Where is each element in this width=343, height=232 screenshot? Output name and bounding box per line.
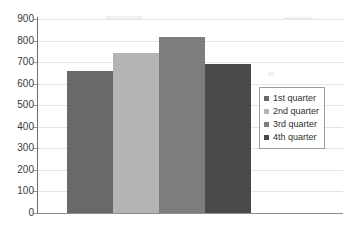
bar-1[interactable] bbox=[67, 71, 113, 213]
legend-label: 3rd quarter bbox=[273, 120, 317, 129]
legend-swatch-icon bbox=[264, 109, 269, 114]
legend-swatch-icon bbox=[264, 96, 269, 101]
bar-2[interactable] bbox=[113, 53, 159, 213]
legend-label: 4th quarter bbox=[273, 133, 317, 142]
legend-item-3[interactable]: 3rd quarter bbox=[264, 118, 319, 131]
bar-3[interactable] bbox=[159, 37, 205, 213]
legend-item-4[interactable]: 4th quarter bbox=[264, 131, 319, 144]
bar-4[interactable] bbox=[205, 64, 251, 213]
legend-item-2[interactable]: 2nd quarter bbox=[264, 105, 319, 118]
legend-label: 2nd quarter bbox=[273, 107, 319, 116]
chart-legend: 1st quarter2nd quarter3rd quarter4th qua… bbox=[259, 87, 325, 149]
legend-label: 1st quarter bbox=[273, 94, 316, 103]
legend-item-1[interactable]: 1st quarter bbox=[264, 92, 319, 105]
bar-chart: 9008007006005004003002001000 1st quarter… bbox=[0, 0, 343, 232]
legend-swatch-icon bbox=[264, 122, 269, 127]
legend-swatch-icon bbox=[264, 135, 269, 140]
